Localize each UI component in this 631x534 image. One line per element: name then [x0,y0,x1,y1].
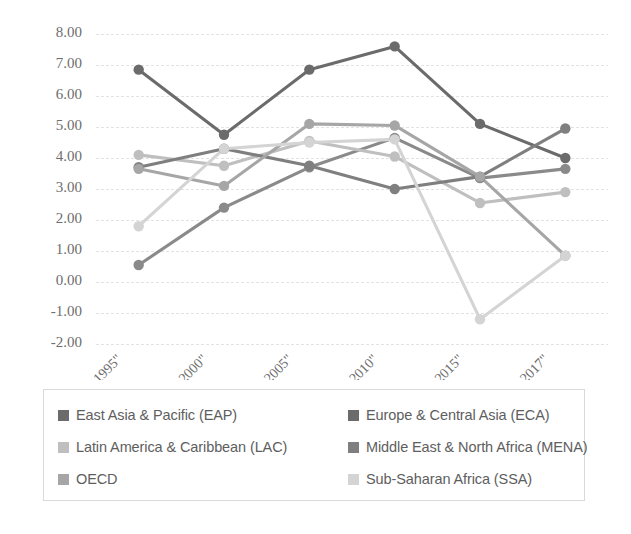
y-tick-label: 4.00 [56,148,82,164]
plot-area: 8.007.006.005.004.003.002.001.000.00-1.0… [0,0,631,380]
legend-swatch-icon [348,442,359,453]
data-point [304,119,314,129]
y-tick-label: 3.00 [56,179,82,195]
series-line-ssa [139,139,566,319]
x-tick-label: "2005-2010" [319,352,381,380]
legend-item[interactable]: East Asia & Pacific (EAP) [58,407,348,423]
legend-item[interactable]: OECD [58,471,348,487]
y-tick-label: 2.00 [56,210,82,226]
series-line-oecd [139,124,566,256]
data-point [560,250,570,260]
legend-swatch-icon [348,474,359,485]
data-point [133,221,143,231]
legend-grid: East Asia & Pacific (EAP)Europe & Centra… [44,399,584,495]
data-point [560,187,570,197]
y-tick-label: -2.00 [51,334,82,350]
data-point [475,171,485,181]
x-tick-label: "2010-2015" [405,352,467,380]
series-line-mena [139,129,566,189]
legend-label: Latin America & Caribbean (LAC) [76,439,287,455]
legend-swatch-icon [348,410,359,421]
y-tick-label: 8.00 [56,24,82,40]
legend-label: Europe & Central Asia (ECA) [366,407,549,423]
data-point [389,41,399,51]
data-point [389,120,399,130]
data-point [304,137,314,147]
legend-label: Middle East & North Africa (MENA) [366,439,588,455]
x-tick-label: "1990-1995" [63,352,125,380]
legend-item[interactable]: Sub-Saharan Africa (SSA) [348,471,588,487]
data-point [560,153,570,163]
line-chart: 8.007.006.005.004.003.002.001.000.00-1.0… [0,0,631,534]
data-point [219,144,229,154]
legend-label: East Asia & Pacific (EAP) [76,407,237,423]
y-tick-label: 0.00 [56,272,82,288]
legend: East Asia & Pacific (EAP)Europe & Centra… [43,389,585,501]
y-tick-label: 7.00 [56,55,82,71]
gridlines [96,34,608,344]
legend-item[interactable]: Middle East & North Africa (MENA) [348,439,588,455]
data-point [133,260,143,270]
data-point [304,64,314,74]
data-point [560,164,570,174]
data-point [219,161,229,171]
data-point [133,64,143,74]
data-point [219,202,229,212]
x-tick-label: "1995-2000" [149,352,211,380]
y-tick-label: -1.00 [51,303,82,319]
legend-item[interactable]: Europe & Central Asia (ECA) [348,407,588,423]
legend-label: OECD [76,471,118,487]
x-axis-tick-labels: "1990-1995""1995-2000""2000-2005""2005-2… [63,352,551,380]
data-point [389,151,399,161]
data-point [304,161,314,171]
y-tick-label: 6.00 [56,86,82,102]
legend-label: Sub-Saharan Africa (SSA) [366,471,532,487]
data-point [389,134,399,144]
y-axis-tick-labels: 8.007.006.005.004.003.002.001.000.00-1.0… [51,24,82,350]
data-point [219,181,229,191]
legend-swatch-icon [58,442,69,453]
x-tick-label: "2000-2005" [234,352,296,380]
plot-svg: 8.007.006.005.004.003.002.001.000.00-1.0… [0,0,631,380]
legend-swatch-icon [58,410,69,421]
series-line-lac [139,141,566,203]
data-point [219,130,229,140]
y-tick-label: 5.00 [56,117,82,133]
legend-swatch-icon [58,474,69,485]
data-point [133,150,143,160]
data-point [133,164,143,174]
series-lines [139,46,566,319]
data-point [475,314,485,324]
data-point [475,119,485,129]
data-point [475,198,485,208]
legend-item[interactable]: Latin America & Caribbean (LAC) [58,439,348,455]
x-tick-label: "2015-2017" [490,352,552,380]
data-point [560,123,570,133]
y-tick-label: 1.00 [56,241,82,257]
data-point [389,184,399,194]
